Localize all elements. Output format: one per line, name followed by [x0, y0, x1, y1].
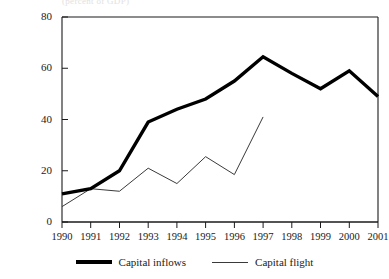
y-tick-label-80: 80 — [26, 11, 52, 22]
legend-item-capital-inflows: Capital inflows — [76, 256, 187, 268]
series-capital-inflows-line — [62, 57, 378, 194]
legend-swatch-thick-line-icon — [76, 260, 112, 263]
legend-item-capital-flight: Capital flight — [212, 256, 313, 268]
chart-legend: Capital inflows Capital flight — [0, 256, 389, 268]
legend-label-capital-flight: Capital flight — [255, 256, 313, 268]
legend-label-capital-inflows: Capital inflows — [119, 256, 187, 268]
y-tick-label-20: 20 — [26, 165, 52, 176]
series-capital-flight-line — [62, 117, 263, 207]
chart-container: (percent of GDP) — [0, 0, 389, 279]
y-tick-label-40: 40 — [26, 114, 52, 125]
x-tick-label-2001: 2001 — [358, 231, 389, 242]
legend-swatch-thin-line-icon — [212, 262, 248, 263]
y-tick-label-60: 60 — [26, 62, 52, 73]
y-tick-label-0: 0 — [26, 216, 52, 227]
x-axis-ticks — [62, 222, 378, 228]
plot-frame — [62, 17, 378, 222]
